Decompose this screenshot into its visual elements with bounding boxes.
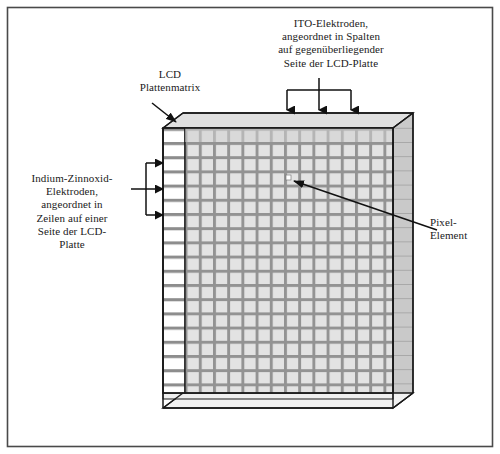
pixel-matrix-face	[185, 128, 393, 393]
label-lcd-panel-matrix: LCD Plattenmatrix	[108, 68, 232, 94]
panel-bottom-slab	[163, 393, 393, 399]
lcd-matrix-leader-arrow	[152, 103, 176, 122]
lcd-panel-assembly	[163, 113, 413, 408]
label-pixel-element: Pixel- Element	[430, 216, 496, 242]
label-ito-column-electrodes: ITO-Elektroden, angeordnet in Spalten au…	[236, 17, 426, 70]
pixel-element-marker	[286, 175, 291, 180]
panel-right-face	[393, 113, 413, 408]
label-ito-row-electrodes: Indium-Zinnoxid- Elektroden, angeordnet …	[4, 172, 140, 251]
column-electrode-arrows	[287, 78, 351, 110]
row-electrode-stub-strip	[163, 128, 185, 393]
matrix-top-band	[185, 128, 393, 142]
figure-canvas: ITO-Elektroden, angeordnet in Spalten au…	[0, 0, 500, 454]
panel-top-face	[163, 113, 413, 128]
